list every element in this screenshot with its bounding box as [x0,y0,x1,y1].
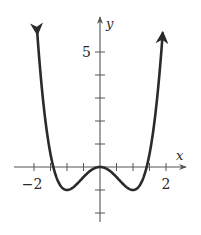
x-axis-label: x [176,148,184,163]
x-tick-label: −2 [22,176,43,192]
function-graph: −225 x y [0,0,201,235]
y-tick-label: 5 [82,44,91,60]
x-tick-label: 2 [162,176,171,192]
graph-canvas: −225 x y [0,0,201,235]
y-axis-label: y [105,16,114,31]
